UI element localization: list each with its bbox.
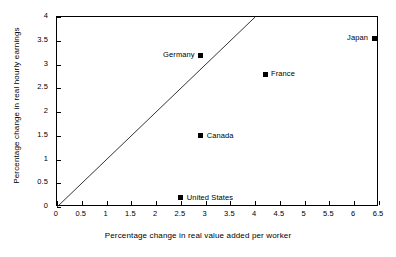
y-axis-tick <box>57 207 61 208</box>
x-axis-tick <box>181 201 182 205</box>
plot-area: GermanyJapanFranceCanadaUnited States <box>56 16 378 206</box>
x-axis-tick <box>156 201 157 205</box>
x-axis-title: Percentage change in real value added pe… <box>0 231 396 240</box>
reference-line <box>57 17 379 207</box>
data-point-marker <box>178 195 183 200</box>
data-point-marker <box>198 133 203 138</box>
y-axis-tick-label: 4 <box>0 11 48 20</box>
x-axis-tick <box>230 201 231 205</box>
y-axis-tick <box>57 17 61 18</box>
y-axis-tick-label: 2.5 <box>0 82 48 91</box>
y-axis-tick-label: 2 <box>0 106 48 115</box>
x-axis-tick <box>280 201 281 205</box>
x-axis-tick <box>379 201 380 205</box>
x-axis-tick <box>305 201 306 205</box>
y-axis-tick <box>57 183 61 184</box>
x-axis-tick <box>131 201 132 205</box>
data-point-label: Japan <box>347 33 368 42</box>
x-axis-tick <box>329 201 330 205</box>
y-axis-tick <box>57 88 61 89</box>
y-axis-tick <box>57 65 61 66</box>
x-axis-tick-label: 6.5 <box>363 209 393 218</box>
data-point-label: Germany <box>163 50 195 59</box>
data-point-label: France <box>271 69 295 78</box>
y-axis-tick-label: 1 <box>0 154 48 163</box>
data-point-marker <box>198 53 203 58</box>
y-axis-tick <box>57 160 61 161</box>
x-axis-tick <box>206 201 207 205</box>
y-axis-tick <box>57 112 61 113</box>
y-axis-tick <box>57 136 61 137</box>
x-axis-tick <box>107 201 108 205</box>
y-axis-tick <box>57 41 61 42</box>
y-axis-tick-label: 3.5 <box>0 35 48 44</box>
data-point-label: United States <box>187 193 233 202</box>
x-axis-tick <box>354 201 355 205</box>
x-axis-tick <box>255 201 256 205</box>
data-point-marker <box>372 36 377 41</box>
data-point-label: Canada <box>207 131 234 140</box>
y-axis-tick-label: 0 <box>0 201 48 210</box>
y-axis-tick-label: 3 <box>0 59 48 68</box>
x-axis-tick <box>82 201 83 205</box>
scatter-chart: GermanyJapanFranceCanadaUnited States Pe… <box>0 0 396 257</box>
y-axis-tick-label: 0.5 <box>0 177 48 186</box>
x-axis-tick <box>57 201 58 205</box>
y-axis-tick-label: 1.5 <box>0 130 48 139</box>
data-point-marker <box>263 72 268 77</box>
